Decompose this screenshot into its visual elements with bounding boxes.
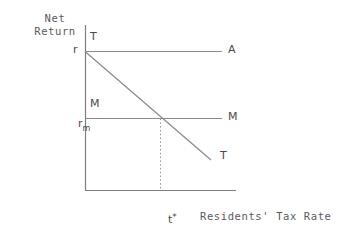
label-t-curve-end: T [220,150,227,161]
label-t-curve-top: T [90,31,97,42]
label-a-line: A [228,44,236,55]
label-rm: rm [64,107,82,140]
x-axis-title: Residents' Tax Rate [200,210,332,223]
label-t-star: t* [154,203,177,236]
label-rm-base: r [78,117,83,130]
label-r-intercept: r [73,44,78,55]
label-m-line: M [228,111,238,122]
label-t-star-asterisk: * [172,212,177,222]
t-curve [85,52,211,161]
label-rm-subscript: m [83,124,91,133]
label-m-inner: M [90,98,100,109]
y-axis-title: Net Return [24,12,86,38]
economics-diagram: Net Return Residents' Tax Rate T r A M M… [0,0,348,239]
